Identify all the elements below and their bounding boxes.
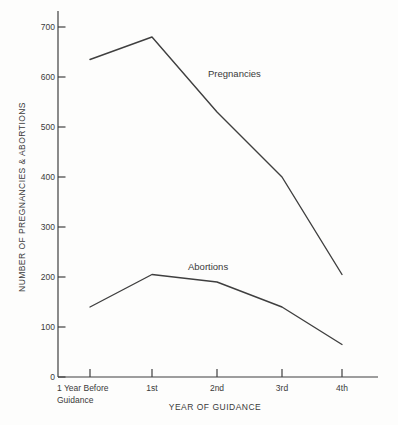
x-tick-label-0: 1 Year Before xyxy=(57,383,127,393)
series-line-abortions xyxy=(90,275,342,345)
x-tick-label-2: 2nd xyxy=(192,383,242,393)
y-tick-label-100: 100 xyxy=(31,322,55,332)
y-tick-label-600: 600 xyxy=(31,72,55,82)
x-axis-title: YEAR OF GUIDANCE xyxy=(169,402,262,412)
y-tick-label-0: 0 xyxy=(31,372,55,382)
y-tick-label-200: 200 xyxy=(31,272,55,282)
y-tick-label-400: 400 xyxy=(31,172,55,182)
y-axis-title: NUMBER OF PREGNANCIES & ABORTIONS xyxy=(17,102,27,292)
chart-canvas xyxy=(0,0,398,425)
x-tick-label-4: 4th xyxy=(317,383,367,393)
chart-figure: 01002003004005006007001 Year BeforeGuida… xyxy=(0,0,398,425)
y-tick-label-300: 300 xyxy=(31,222,55,232)
y-tick-label-700: 700 xyxy=(31,22,55,32)
y-tick-label-500: 500 xyxy=(31,122,55,132)
x-tick-label-0-line2: Guidance xyxy=(57,395,127,405)
series-label-abortions: Abortions xyxy=(188,261,228,272)
x-tick-label-1: 1st xyxy=(127,383,177,393)
series-label-pregnancies: Pregnancies xyxy=(208,68,261,79)
x-tick-label-3: 3rd xyxy=(257,383,307,393)
